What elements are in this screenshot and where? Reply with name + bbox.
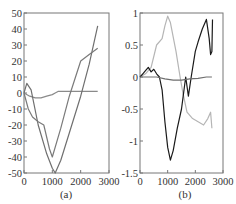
y-tick-label: 0.5 — [125, 40, 138, 51]
y-tick-label: 20 — [12, 56, 23, 67]
x-tick-label: 2000 — [185, 176, 206, 187]
y-tick-label: 50 — [12, 8, 23, 19]
x-tick-label: 3000 — [99, 176, 120, 187]
y-tick-label: -50 — [8, 168, 22, 179]
x-tick-label: 1000 — [157, 176, 178, 187]
y-tick-label: 40 — [12, 24, 23, 35]
y-tick-label: 10 — [12, 72, 23, 83]
y-tick-label: -40 — [8, 152, 22, 163]
x-tick-label: 3000 — [213, 176, 234, 187]
figure: 50403020100-10-20-30-40-500100020003000(… — [0, 0, 236, 204]
panel-label: (b) — [179, 188, 192, 201]
y-tick-label: 0 — [17, 88, 22, 99]
series-line-curve-steep-drop — [24, 48, 98, 157]
y-tick-label: -0.5 — [121, 104, 138, 115]
series-line-black — [140, 19, 213, 160]
x-tick-label: 0 — [21, 176, 26, 187]
y-tick-label: -1.5 — [121, 168, 138, 179]
panel-b: 10.50-0.5-1-1.50100020003000(b) — [121, 8, 233, 202]
y-tick-label: -30 — [8, 136, 22, 147]
series-line-medium-grey-flat — [140, 77, 212, 80]
x-tick-label: 1000 — [42, 176, 63, 187]
y-tick-label: -1 — [129, 136, 138, 147]
plot-frame — [24, 13, 109, 173]
series-line-curve-flat — [24, 91, 98, 97]
y-tick-label: 1 — [133, 8, 138, 19]
y-tick-label: 30 — [12, 40, 23, 51]
x-tick-label: 0 — [137, 176, 142, 187]
series-line-curve-peak-v — [24, 26, 98, 173]
plot-frame — [140, 13, 223, 173]
panel-a: 50403020100-10-20-30-40-500100020003000(… — [8, 8, 120, 202]
y-tick-label: 0 — [133, 72, 138, 83]
panel-label: (a) — [60, 188, 73, 201]
y-tick-label: -20 — [8, 120, 22, 131]
y-tick-label: -10 — [8, 104, 22, 115]
x-tick-label: 2000 — [70, 176, 91, 187]
